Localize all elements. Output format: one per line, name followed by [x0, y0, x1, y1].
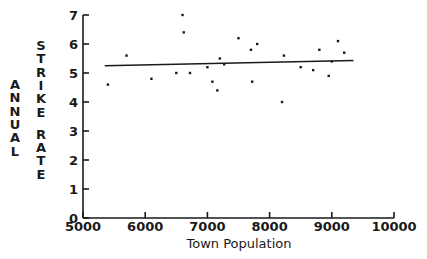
x-axis-tick-label: 8000: [252, 219, 288, 234]
y-axis-label-inner: S T R I K E R A T E: [30, 10, 52, 210]
y-axis-label-outer-char: U: [10, 118, 21, 131]
y-axis-label-outer-char: A: [10, 131, 20, 144]
data-point: [251, 81, 253, 83]
data-point: [343, 52, 345, 54]
trendline: [105, 61, 354, 66]
x-axis-tick-label: 9000: [314, 219, 350, 234]
x-axis-tick-label: 10000: [371, 219, 416, 234]
data-point: [281, 101, 283, 103]
y-axis-label-outer: A N N U A L: [4, 58, 26, 178]
data-point: [219, 57, 221, 59]
data-point: [250, 49, 252, 51]
data-point: [237, 37, 239, 39]
y-axis-label-inner-char: R: [36, 66, 46, 79]
y-axis-label-outer-char: L: [11, 145, 19, 158]
data-point: [327, 75, 329, 77]
x-axis-tick-label: 5000: [65, 219, 101, 234]
data-point: [181, 14, 183, 16]
data-point: [150, 78, 152, 80]
y-axis-label-inner-char: A: [36, 141, 46, 154]
data-point: [216, 89, 218, 91]
data-point: [337, 40, 339, 42]
y-axis-tick-label: 6: [69, 37, 78, 52]
x-axis-tick-label: 7000: [189, 219, 225, 234]
y-axis-tick-label: 7: [69, 8, 78, 23]
data-point: [189, 72, 191, 74]
y-axis-label-inner-char: K: [36, 92, 46, 105]
y-axis-tick-label: 2: [69, 153, 78, 168]
trendline-segment: [105, 61, 354, 66]
y-axis-tick-label: 4: [69, 95, 78, 110]
y-axis-label-inner-char: R: [36, 128, 46, 141]
y-axis-label-inner-char: T: [37, 52, 46, 65]
x-axis-title: Town Population: [83, 236, 395, 251]
x-axis-ticks: [83, 212, 394, 218]
data-point: [331, 60, 333, 62]
scatter-chart-figure: A N N U A L S T R I K E R A T E 01234567…: [0, 0, 427, 259]
data-point: [300, 66, 302, 68]
y-axis-tick-label: 3: [69, 124, 78, 139]
data-points: [107, 14, 346, 103]
axis-lines: [83, 15, 394, 218]
data-point: [211, 81, 213, 83]
data-point: [223, 63, 225, 65]
y-axis-label-outer-char: A: [10, 78, 20, 91]
y-axis-tick-label: 5: [69, 66, 78, 81]
data-point: [256, 43, 258, 45]
y-axis-label-outer-char: N: [10, 91, 21, 104]
data-point: [206, 66, 208, 68]
data-point: [312, 69, 314, 71]
y-axis-label-outer-char: N: [10, 105, 21, 118]
y-axis-ticks: [83, 15, 89, 218]
data-point: [125, 54, 127, 56]
data-point: [318, 49, 320, 51]
y-axis-label-inner-char: E: [37, 106, 46, 119]
y-axis-label-inner-char: E: [37, 168, 46, 181]
y-axis-label-inner-char: I: [39, 79, 44, 92]
y-axis-label-inner-char: T: [37, 154, 46, 167]
x-axis-tick-label: 6000: [127, 219, 163, 234]
data-point: [183, 31, 185, 33]
y-axis-tick-label: 1: [69, 182, 78, 197]
data-point: [175, 72, 177, 74]
y-axis-label-inner-char: S: [36, 39, 45, 52]
data-point: [283, 54, 285, 56]
data-point: [107, 83, 109, 85]
